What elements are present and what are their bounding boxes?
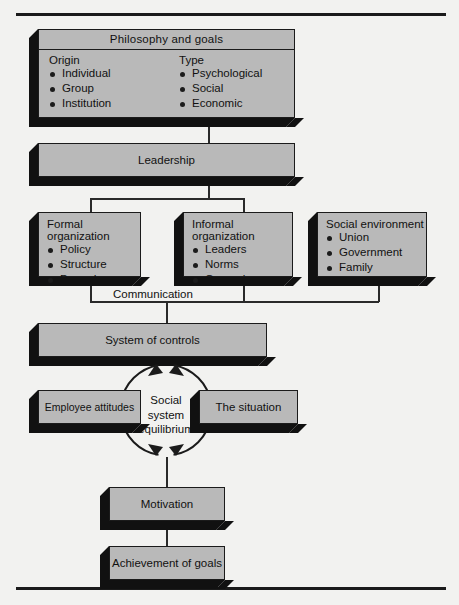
communication-bus (90, 301, 379, 303)
diagram-canvas: Philosophy and goals Origin Individual G… (0, 0, 459, 605)
top-rule (16, 13, 446, 16)
node-motivation[interactable]: Motivation (109, 487, 225, 521)
list-item: Leaders (192, 242, 292, 257)
list-item: Family (326, 260, 424, 275)
list-item: Institution (49, 96, 111, 111)
social-environment-label: Social environment (326, 218, 424, 230)
informal-organization-label: Informal organization (192, 218, 292, 242)
list-item: Policy (47, 242, 140, 257)
philosophy-col2-list: Psychological Social Economic (179, 66, 262, 111)
node-formal-organization[interactable]: Formal organization Policy Structure Pro… (38, 212, 141, 277)
list-item: Economic (179, 96, 262, 111)
node-social-environment[interactable]: Social environment Union Government Fami… (317, 212, 427, 277)
equilibrium-line-1: Social (126, 393, 206, 408)
list-item: Procedure (47, 272, 140, 287)
node-the-situation[interactable]: The situation (199, 390, 298, 424)
equilibrium-line-3: equilibrium (126, 422, 206, 437)
communication-label: Communication (108, 288, 198, 300)
node-achievement-of-goals[interactable]: Achievement of goals (109, 546, 225, 580)
formal-organization-list: Policy Structure Procedure (47, 242, 140, 287)
formal-organization-label: Formal organization (47, 218, 140, 242)
list-item: Norms (192, 257, 292, 272)
motivation-label: Motivation (110, 498, 224, 510)
list-item: Government (326, 245, 424, 260)
equilibrium-label: Social system equilibrium (126, 393, 206, 437)
list-item: Structure (47, 257, 140, 272)
philosophy-col1-header: Origin (49, 54, 111, 66)
list-item: Grapevine (192, 272, 292, 287)
list-item: Psychological (179, 66, 262, 81)
list-item: Union (326, 230, 424, 245)
philosophy-col2-header: Type (179, 54, 262, 66)
social-environment-list: Union Government Family (326, 230, 424, 275)
philosophy-title: Philosophy and goals (39, 30, 294, 50)
connector-leadership-bus (90, 198, 244, 200)
connector-cycle-to-motivation (166, 457, 168, 487)
connector-comm-to-controls (166, 301, 168, 323)
achievement-label: Achievement of goals (110, 557, 224, 569)
leadership-label: Leadership (39, 154, 294, 166)
node-leadership[interactable]: Leadership (38, 143, 295, 177)
node-philosophy-and-goals[interactable]: Philosophy and goals Origin Individual G… (38, 29, 295, 118)
system-of-controls-label: System of controls (39, 334, 266, 346)
node-informal-organization[interactable]: Informal organization Leaders Norms Grap… (183, 212, 293, 277)
equilibrium-line-2: system (126, 408, 206, 423)
informal-organization-list: Leaders Norms Grapevine (192, 242, 292, 287)
connector-bus-to-formal (90, 198, 92, 212)
connector-bus-to-informal (243, 198, 245, 212)
list-item: Individual (49, 66, 111, 81)
node-system-of-controls[interactable]: System of controls (38, 323, 267, 357)
list-item: Group (49, 81, 111, 96)
the-situation-label: The situation (200, 401, 297, 413)
philosophy-col1-list: Individual Group Institution (49, 66, 111, 111)
list-item: Social (179, 81, 262, 96)
employee-attitudes-label: Employee attitudes (39, 401, 140, 413)
